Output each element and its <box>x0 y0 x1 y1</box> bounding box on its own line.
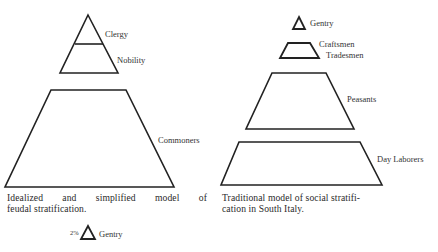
right-caption: Traditional model of social stratifi- ca… <box>222 192 422 214</box>
bottom-percent: 2% <box>70 230 79 237</box>
commoners-trapezoid <box>5 90 174 187</box>
label-day-laborers: Day Laborers <box>377 155 424 164</box>
label-commoners: Commoners <box>158 136 200 145</box>
label-gentry: Gentry <box>310 19 334 28</box>
gentry-triangle <box>293 17 305 29</box>
left-caption-line2: feudal stratification. <box>7 203 207 214</box>
stratification-diagrams <box>0 0 438 252</box>
right-caption-line1: Traditional model of social stratifi- <box>222 192 422 203</box>
label-nobility: Nobility <box>117 56 145 65</box>
label-peasants: Peasants <box>347 95 376 104</box>
bottom-label-gentry: Gentry <box>99 230 123 239</box>
left-caption-line1: Idealized and simplified model of <box>7 192 207 203</box>
peasants-trapezoid <box>246 73 354 129</box>
label-craftsmen: Craftsmen <box>319 40 354 49</box>
day-laborers-trapezoid <box>221 142 382 185</box>
craftsmen-tradesmen-trapezoid <box>280 43 319 58</box>
bottom-gentry-triangle <box>81 226 95 239</box>
label-tradesmen: Tradesmen <box>326 51 363 60</box>
left-caption: Idealized and simplified model of feudal… <box>7 192 207 214</box>
right-caption-line2: cation in South Italy. <box>222 203 422 214</box>
label-clergy: Clergy <box>105 30 128 39</box>
